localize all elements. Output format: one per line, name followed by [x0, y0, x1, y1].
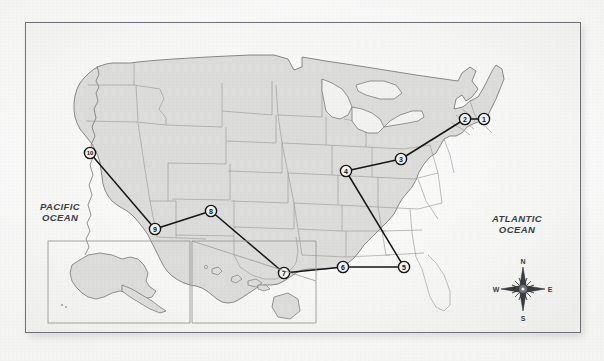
stop-marker-8[interactable]: 8	[205, 205, 216, 216]
figure-page: 12345678910	[0, 0, 604, 361]
stop-marker-2[interactable]: 2	[459, 113, 470, 124]
stop-marker-number: 2	[463, 116, 467, 123]
map-plate: 12345678910	[25, 22, 581, 333]
stop-marker-3[interactable]: 3	[395, 153, 406, 164]
stop-marker-6[interactable]: 6	[337, 261, 348, 272]
stop-marker-number: 8	[209, 208, 213, 215]
stop-marker-number: 1	[482, 116, 486, 123]
stop-marker-number: 4	[344, 168, 348, 175]
atlantic-ocean-label: ATLANTIC OCEAN	[492, 213, 542, 235]
stop-marker-number: 9	[153, 226, 157, 233]
compass-south-label: S	[521, 315, 526, 322]
stop-marker-4[interactable]: 4	[340, 165, 351, 176]
compass-east-label: E	[548, 286, 553, 293]
us-map-svg: 12345678910	[26, 23, 579, 331]
stop-marker-10[interactable]: 10	[84, 147, 95, 158]
stop-marker-number: 10	[87, 150, 94, 156]
stop-marker-5[interactable]: 5	[398, 261, 409, 272]
stop-marker-number: 5	[402, 264, 406, 271]
compass-north-label: N	[520, 258, 525, 265]
stop-marker-1[interactable]: 1	[478, 113, 489, 124]
stop-marker-number: 3	[399, 156, 403, 163]
stop-marker-9[interactable]: 9	[149, 223, 160, 234]
stop-marker-number: 6	[341, 264, 345, 271]
map-plate-inner: 12345678910	[26, 23, 580, 332]
compass-rose: N E S W	[493, 258, 553, 322]
compass-west-label: W	[493, 286, 500, 293]
pacific-ocean-label: PACIFIC OCEAN	[40, 201, 80, 223]
